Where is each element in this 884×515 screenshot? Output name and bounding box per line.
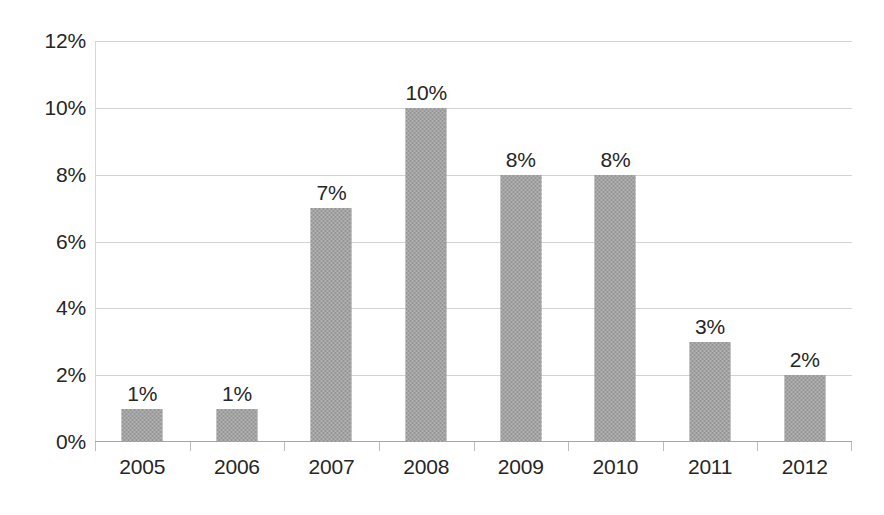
x-axis-tick-labels: 2005 2006 2007 2008 2009 2010 2011 2012 [95, 455, 852, 489]
y-tick-label-0: 0% [16, 430, 86, 454]
x-tick-label-2007: 2007 [284, 455, 379, 479]
x-minor-tick-6 [663, 442, 664, 451]
bar-slot-2006: 1% [190, 41, 285, 442]
bar-2010[interactable] [595, 175, 636, 442]
x-minor-tick-5 [568, 442, 569, 451]
bar-slot-2010: 8% [568, 41, 663, 442]
x-minor-tick-8 [851, 442, 852, 451]
plot-area: 1% 1% 7% 10% 8% 8% 3% 2% [95, 41, 852, 442]
bar-2006[interactable] [216, 409, 257, 442]
bar-slot-2011: 3% [663, 41, 758, 442]
x-minor-tick-3 [379, 442, 380, 451]
x-axis-ticks [95, 442, 852, 451]
bar-slot-2005: 1% [95, 41, 190, 442]
x-tick-label-2008: 2008 [379, 455, 474, 479]
x-tick-label-2012: 2012 [757, 455, 852, 479]
bar-2008[interactable] [406, 108, 447, 442]
bar-slot-2009: 8% [474, 41, 569, 442]
bar-value-2012: 2% [790, 348, 820, 372]
bar-2012[interactable] [784, 375, 825, 442]
bar-value-2008: 10% [405, 81, 446, 105]
bar-value-2005: 1% [127, 382, 157, 406]
bar-value-2006: 1% [222, 382, 252, 406]
x-tick-label-2011: 2011 [663, 455, 758, 479]
x-minor-tick-2 [284, 442, 285, 451]
y-tick-label-2: 2% [16, 363, 86, 387]
x-minor-tick-1 [190, 442, 191, 451]
bar-value-2009: 8% [506, 148, 536, 172]
bar-chart: 0% 2% 4% 6% 8% 10% 12% 1% 1% 7% 1 [0, 0, 884, 515]
x-minor-tick-0 [95, 442, 96, 451]
x-minor-tick-4 [474, 442, 475, 451]
y-tick-label-12: 12% [16, 29, 86, 53]
bar-2011[interactable] [690, 342, 731, 442]
bar-2007[interactable] [311, 208, 352, 442]
x-minor-tick-7 [757, 442, 758, 451]
bar-slot-2007: 7% [284, 41, 379, 442]
y-axis-tick-labels: 0% 2% 4% 6% 8% 10% 12% [8, 41, 86, 442]
bar-value-2011: 3% [695, 315, 725, 339]
bar-2005[interactable] [122, 409, 163, 442]
x-tick-label-2010: 2010 [568, 455, 663, 479]
bar-value-2010: 8% [600, 148, 630, 172]
x-tick-label-2005: 2005 [95, 455, 190, 479]
y-tick-label-8: 8% [16, 163, 86, 187]
x-tick-label-2009: 2009 [474, 455, 569, 479]
x-tick-label-2006: 2006 [190, 455, 285, 479]
bar-value-2007: 7% [317, 181, 347, 205]
bar-slot-2012: 2% [757, 41, 852, 442]
y-tick-label-4: 4% [16, 296, 86, 320]
bar-slot-2008: 10% [379, 41, 474, 442]
bar-2009[interactable] [500, 175, 541, 442]
y-tick-label-10: 10% [16, 96, 86, 120]
y-tick-label-6: 6% [16, 230, 86, 254]
